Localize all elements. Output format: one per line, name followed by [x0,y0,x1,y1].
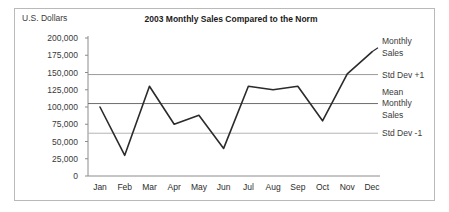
legend-label-monthly-sales: Monthly Sales [382,36,412,59]
legend-label-mean-monthly-sales: Mean Monthly Sales [382,87,412,122]
legend-label-monthly-sales-line2: Sales [382,48,412,60]
legend-label-monthly-sales-line1: Monthly [382,36,412,48]
legend-label-mean-line1: Mean [382,87,412,99]
chart-plot-root: U.S. Dollars 2003 Monthly Sales Compared… [0,0,449,212]
legend-label-std-dev-plus: Std Dev +1 [382,70,424,80]
legend-label-mean-line3: Sales [382,110,412,122]
legend-leader-line-monthly-sales [372,48,378,52]
legend-label-mean-line2: Monthly [382,98,412,110]
legend-label-std-dev-minus: Std Dev -1 [382,128,422,138]
